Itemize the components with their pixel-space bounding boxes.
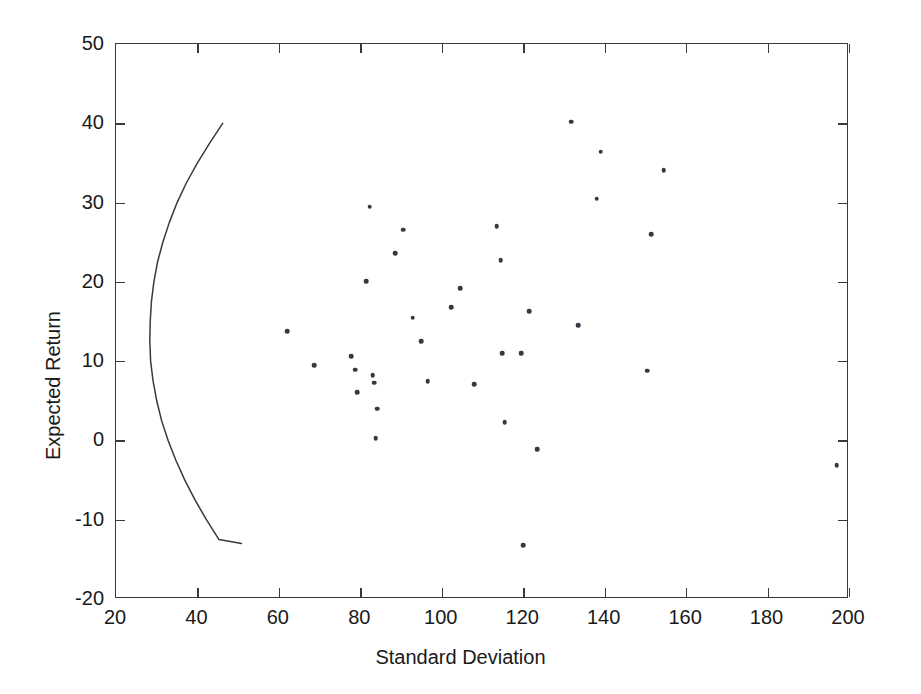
x-tick-label: 200 — [831, 606, 864, 629]
scatter-point — [576, 323, 581, 328]
scatter-point — [500, 351, 505, 356]
scatter-point — [375, 406, 380, 411]
x-tick-mark-top — [768, 44, 769, 53]
scatter-point — [449, 305, 454, 310]
x-tick-label: 100 — [424, 606, 457, 629]
x-tick-mark-top — [523, 44, 524, 53]
scatter-point — [521, 543, 526, 548]
scatter-point — [645, 368, 650, 373]
scatter-point — [519, 351, 524, 356]
scatter-point — [393, 251, 398, 256]
x-tick-mark — [360, 588, 361, 597]
x-tick-mark-top — [686, 44, 687, 53]
x-tick-mark — [605, 588, 606, 597]
scatter-point — [503, 420, 508, 425]
scatter-point — [535, 447, 540, 452]
scatter-point — [349, 354, 354, 359]
scatter-point — [411, 315, 416, 320]
x-tick-label: 160 — [668, 606, 701, 629]
x-axis-label: Standard Deviation — [0, 646, 921, 669]
scatter-point — [374, 436, 379, 441]
scatter-point — [367, 204, 372, 209]
scatter-point — [370, 373, 375, 378]
scatter-point — [594, 196, 599, 201]
chart-figure: 20406080100120140160180200 -20-100102030… — [0, 0, 921, 694]
y-tick-mark-right — [838, 123, 847, 124]
y-axis-label: Expected Return — [42, 311, 65, 460]
plot-area — [115, 43, 848, 598]
y-tick-mark-right — [838, 520, 847, 521]
scatter-point — [425, 379, 430, 384]
y-tick-mark — [116, 361, 125, 362]
x-tick-mark — [442, 588, 443, 597]
y-tick-mark-right — [838, 203, 847, 204]
scatter-point — [569, 119, 574, 124]
x-tick-mark — [197, 588, 198, 597]
y-tick-label: -10 — [40, 507, 104, 530]
scatter-point — [598, 150, 603, 155]
x-tick-mark-top — [279, 44, 280, 53]
x-tick-mark — [523, 588, 524, 597]
x-tick-mark-top — [605, 44, 606, 53]
x-tick-mark-top — [849, 44, 850, 53]
scatter-point — [312, 363, 317, 368]
y-tick-label: 20 — [40, 269, 104, 292]
scatter-point — [364, 279, 369, 284]
y-tick-label: -20 — [40, 587, 104, 610]
scatter-point — [372, 380, 377, 385]
x-tick-mark — [768, 588, 769, 597]
x-tick-label: 20 — [104, 606, 126, 629]
scatter-point — [649, 232, 654, 237]
y-tick-label: 30 — [40, 190, 104, 213]
scatter-point — [472, 382, 477, 387]
scatter-point — [285, 329, 290, 334]
scatter-point — [494, 224, 499, 229]
x-tick-mark — [686, 588, 687, 597]
scatter-point — [401, 227, 406, 232]
scatter-point — [355, 390, 360, 395]
x-tick-label: 120 — [506, 606, 539, 629]
y-tick-mark-right — [838, 282, 847, 283]
x-tick-mark — [849, 588, 850, 597]
y-tick-mark-right — [838, 361, 847, 362]
scatter-point — [499, 258, 504, 263]
x-tick-mark-top — [197, 44, 198, 53]
scatter-point — [419, 339, 424, 344]
y-tick-mark — [116, 282, 125, 283]
y-tick-label: 50 — [40, 32, 104, 55]
x-tick-label: 140 — [587, 606, 620, 629]
scatter-point — [527, 309, 532, 314]
efficient-frontier-curve — [116, 44, 849, 599]
y-tick-mark — [116, 520, 125, 521]
y-tick-label: 40 — [40, 111, 104, 134]
y-tick-mark — [116, 203, 125, 204]
x-tick-label: 40 — [185, 606, 207, 629]
scatter-point — [661, 168, 666, 173]
y-tick-mark-right — [838, 440, 847, 441]
x-tick-mark — [279, 588, 280, 597]
scatter-point — [834, 463, 839, 468]
scatter-point — [458, 286, 463, 291]
x-tick-mark-top — [360, 44, 361, 53]
y-tick-mark — [116, 440, 125, 441]
scatter-point — [353, 368, 358, 373]
x-tick-label: 180 — [750, 606, 783, 629]
x-tick-label: 80 — [348, 606, 370, 629]
x-tick-mark-top — [442, 44, 443, 53]
x-tick-label: 60 — [267, 606, 289, 629]
y-tick-mark — [116, 123, 125, 124]
